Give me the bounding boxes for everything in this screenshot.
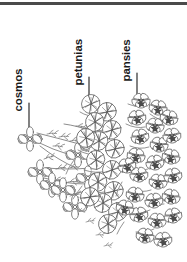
callout-label-petunias: petunias (73, 39, 85, 86)
callout-label-cosmos: cosmos (13, 69, 25, 112)
pansy-blooms (114, 93, 183, 248)
garden-illustration (0, 0, 187, 262)
illustration-linework (17, 73, 184, 248)
flower-garden-figure: cosmos petunias pansies (0, 0, 187, 262)
pansies-group (114, 93, 183, 248)
callout-label-pansies: pansies (121, 39, 133, 81)
